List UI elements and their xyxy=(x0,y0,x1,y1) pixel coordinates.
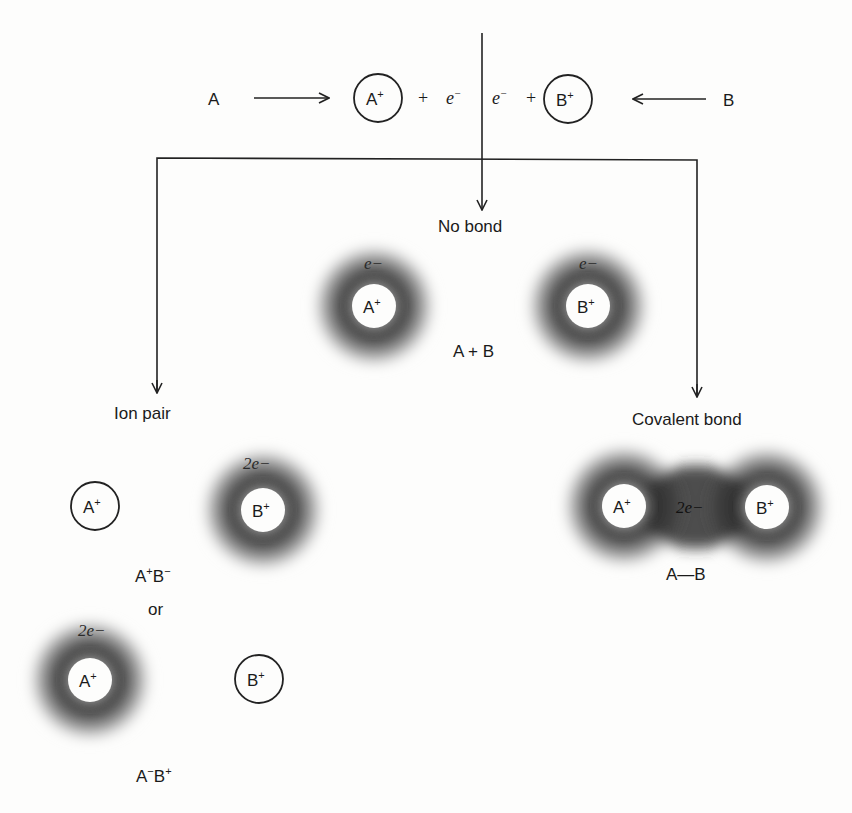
shared-electron-label: 2e− xyxy=(676,498,704,517)
covalent-formula: A—B xyxy=(666,565,706,584)
covalent-cloud: A+ B+ 2e− xyxy=(566,448,825,565)
electron-cloud-label: 2e− xyxy=(243,454,271,473)
ionization-row: A A+ + e− e− + B+ B xyxy=(208,74,734,123)
ion-pair-formula-2: A−B+ xyxy=(136,765,172,786)
atom-a-label: A xyxy=(208,90,220,109)
or-separator: or xyxy=(148,600,163,619)
ion-pair-cloud-a: 2e− A+ xyxy=(32,621,148,738)
bond-formation-diagram: A A+ + e− e− + B+ B No bond e− A+ xyxy=(0,0,852,813)
no-bond-branch: No bond e− A+ e− B+ A + B xyxy=(316,217,646,364)
ion-pair-branch: Ion pair A+ 2e− B+ A+B− or 2e− A+ B+ A−B… xyxy=(32,404,321,786)
electron-cloud-label: e− xyxy=(579,254,598,273)
ion-pair-title: Ion pair xyxy=(114,404,171,423)
ion-pair-formula-1: A+B− xyxy=(135,565,171,586)
no-bond-title: No bond xyxy=(438,217,502,236)
ion-pair-cloud-b: 2e− B+ xyxy=(205,452,321,568)
no-bond-cloud-b: e− B+ xyxy=(530,248,646,364)
plus-sign-right: + xyxy=(526,88,536,108)
covalent-branch: Covalent bond A+ B+ 2e− A—B xyxy=(566,410,825,584)
atom-b-label: B xyxy=(723,91,734,110)
covalent-title: Covalent bond xyxy=(632,410,742,429)
no-bond-formula: A + B xyxy=(453,342,494,361)
electron-left: e− xyxy=(446,87,461,108)
electron-cloud-label: 2e− xyxy=(78,621,106,640)
no-bond-cloud-a: e− A+ xyxy=(316,248,432,364)
electron-cloud-label: e− xyxy=(364,254,383,273)
plus-sign-left: + xyxy=(418,88,428,108)
electron-right: e− xyxy=(492,87,507,108)
